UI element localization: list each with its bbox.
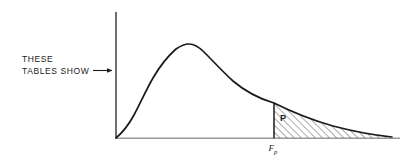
callout-line-2: TABLES SHOW: [22, 66, 89, 76]
shaded-area-label: P: [280, 113, 286, 123]
callout-line-1: THESE: [22, 54, 53, 64]
f-distribution-diagram: THESE TABLES SHOW P F p: [0, 0, 412, 158]
